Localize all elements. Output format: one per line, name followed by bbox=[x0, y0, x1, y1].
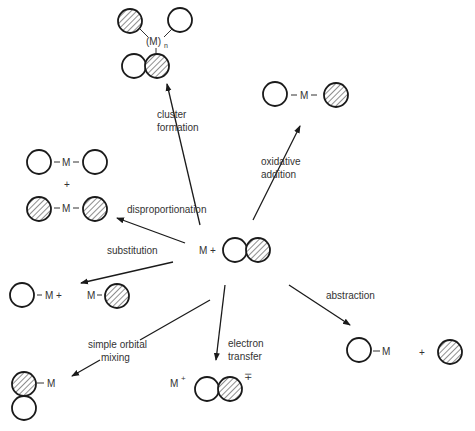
simple-orbital-mixing-line bbox=[140, 300, 210, 340]
hatched-orbital-icon bbox=[27, 197, 51, 221]
open-orbital-icon bbox=[10, 283, 34, 307]
electron-transfer-plus-charge: + bbox=[181, 374, 186, 383]
hatched-orbital-icon bbox=[12, 372, 36, 396]
electron-transfer-label-1: electron bbox=[228, 338, 264, 349]
cluster-subscript: n bbox=[164, 42, 168, 49]
open-orbital-icon bbox=[27, 150, 51, 174]
simple-orbital-mixing-arrow bbox=[72, 360, 100, 376]
oxidative-addition-metal-label: M bbox=[300, 90, 308, 101]
substitution-label: substitution bbox=[107, 245, 158, 256]
cluster-formation-label-1: cluster bbox=[157, 109, 187, 120]
hatched-orbital-icon bbox=[83, 197, 107, 221]
open-orbital-icon bbox=[263, 82, 287, 106]
hatched-orbital-icon bbox=[218, 377, 242, 401]
electron-transfer-metal-label: M bbox=[170, 378, 178, 389]
simple-orbital-mixing-label-1: simple orbital bbox=[88, 339, 147, 350]
abstraction-metal-label: M bbox=[382, 346, 390, 357]
cluster-formation-label-2: formation bbox=[157, 122, 199, 133]
abstraction-label: abstraction bbox=[326, 290, 375, 301]
hatched-orbital-icon bbox=[118, 9, 142, 33]
disproportionation-arrow bbox=[117, 218, 185, 243]
open-orbital-icon bbox=[347, 338, 371, 362]
oxidative-addition-label-2: addition bbox=[261, 169, 296, 180]
simple-orbital-mixing-label-2: mixing bbox=[101, 352, 130, 363]
center-reactant: M + bbox=[199, 238, 270, 262]
oxidative-addition-label-1: oxidative bbox=[261, 156, 301, 167]
open-orbital-icon bbox=[12, 396, 36, 420]
disproportionation-metal-bottom: M bbox=[62, 203, 70, 214]
disproportionation-metal-top: M bbox=[62, 157, 70, 168]
substitution-metal-label-b: M bbox=[87, 290, 95, 301]
open-orbital-icon bbox=[168, 8, 192, 32]
abstraction-plus: + bbox=[419, 347, 425, 358]
electron-transfer-label-2: transfer bbox=[228, 351, 263, 362]
hatched-orbital-icon bbox=[324, 83, 348, 107]
open-orbital-icon bbox=[195, 377, 219, 401]
hatched-orbital-icon bbox=[246, 238, 270, 262]
abstraction-reaction: abstraction M + bbox=[289, 285, 462, 364]
cluster-formation-reaction: cluster formation (M) n bbox=[118, 8, 200, 225]
disproportionation-reaction: disproportionation M + M bbox=[27, 150, 207, 221]
open-orbital-icon bbox=[83, 150, 107, 174]
reaction-diagram: M + cluster formation (M) n oxidative ad… bbox=[0, 0, 475, 431]
disproportionation-plus: + bbox=[64, 179, 70, 190]
center-label: M + bbox=[199, 245, 216, 256]
electron-transfer-arrow bbox=[216, 285, 225, 360]
substitution-arrow bbox=[81, 262, 173, 283]
electron-transfer-minus-charge: ∓ bbox=[244, 371, 252, 382]
substitution-reaction: substitution M + M bbox=[10, 245, 173, 308]
hatched-orbital-icon bbox=[145, 54, 169, 78]
hatched-orbital-icon bbox=[438, 340, 462, 364]
oxidative-addition-reaction: oxidative addition M bbox=[253, 82, 348, 220]
simple-orbital-mixing-reaction: simple orbital mixing M bbox=[12, 300, 210, 420]
electron-transfer-reaction: electron transfer M + ∓ bbox=[170, 285, 264, 401]
hatched-orbital-icon bbox=[105, 284, 129, 308]
disproportionation-label: disproportionation bbox=[127, 204, 207, 215]
simple-orbital-mixing-metal-label: M bbox=[47, 378, 55, 389]
substitution-metal-label-a: M + bbox=[45, 290, 62, 301]
open-orbital-icon bbox=[122, 54, 146, 78]
open-orbital-icon bbox=[223, 238, 247, 262]
cluster-metal-label: (M) bbox=[146, 36, 161, 47]
